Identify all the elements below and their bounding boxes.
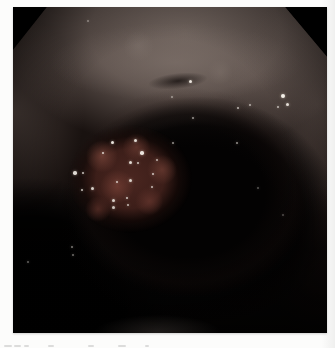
specular-highlight [172,142,174,144]
specular-highlight [189,80,192,83]
specular-highlight [91,187,94,190]
mucosal-fold-streak [147,70,208,92]
endoscope-octagonal-view [13,7,327,333]
specular-highlight [72,254,74,256]
caption-text-mark [145,345,149,347]
caption-text-mark [24,345,29,347]
endoscopy-photo [13,7,327,333]
caption-text-mark [14,345,21,347]
specular-highlight [112,206,115,209]
specular-highlight [156,159,158,161]
caption-text-mark [88,345,94,347]
specular-highlight [71,246,73,248]
specular-highlight [87,20,89,22]
specular-highlight [129,179,132,182]
specular-highlight [277,106,279,108]
specular-highlight [249,104,251,106]
caption-text-mark [48,345,54,347]
specular-highlight [281,94,285,98]
specular-highlight [134,139,137,142]
specular-highlight [286,103,289,106]
specular-highlight [27,261,29,263]
specular-highlight [236,142,238,144]
caption-fragment [0,344,335,348]
specular-highlight [257,187,259,189]
specular-highlight [73,171,77,175]
specular-highlight [129,161,132,164]
specular-highlight [140,151,144,155]
specular-highlight [237,107,239,109]
caption-text-mark [118,345,126,347]
specular-highlight [112,199,115,202]
specular-highlight [192,117,194,119]
specular-highlight [282,214,284,216]
caption-text-mark [4,345,12,347]
specular-highlight [111,141,114,144]
page [0,0,335,348]
specular-highlight [171,96,173,98]
